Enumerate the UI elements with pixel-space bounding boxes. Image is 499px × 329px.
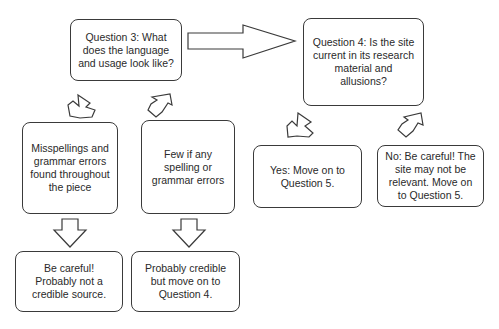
not-credible-label: Be careful! Probably not a credible sour… [22, 262, 116, 301]
no-label: No: Be careful! The site may not be rele… [384, 150, 477, 202]
misspellings-label: Misspellings and grammar errors found th… [29, 142, 111, 194]
down-arrow-icon [173, 219, 205, 247]
question-3-label: Question 3: What does the language and u… [77, 31, 175, 70]
few-errors-node: Few if any spelling or grammar errors [141, 120, 235, 214]
question-3-node: Question 3: What does the language and u… [70, 19, 182, 81]
not-credible-node: Be careful! Probably not a credible sour… [15, 251, 123, 312]
probably-credible-node: Probably credible but move on to Questio… [131, 251, 240, 312]
diagonal-down-left-arrow-icon [68, 95, 95, 118]
no-node: No: Be careful! The site may not be rele… [377, 145, 484, 207]
diagonal-down-left-arrow-icon [287, 113, 313, 137]
misspellings-node: Misspellings and grammar errors found th… [22, 122, 118, 214]
right-arrow-icon [188, 25, 295, 58]
question-4-label: Question 4: Is the site current in its r… [310, 36, 417, 88]
diagonal-down-right-arrow-icon [398, 113, 423, 137]
yes-node: Yes: Move on to Question 5. [253, 145, 362, 208]
probably-credible-label: Probably credible but move on to Questio… [138, 262, 233, 301]
diagonal-down-right-arrow-icon [148, 94, 172, 117]
yes-label: Yes: Move on to Question 5. [260, 164, 355, 190]
down-arrow-icon [54, 219, 86, 247]
few-errors-label: Few if any spelling or grammar errors [148, 148, 228, 187]
question-4-node: Question 4: Is the site current in its r… [303, 18, 424, 106]
